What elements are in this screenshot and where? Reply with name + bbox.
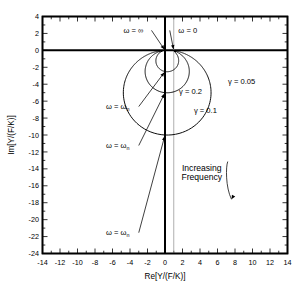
x-tick-label: 8 <box>233 258 237 267</box>
annotation-omega-n-gamma-02: ω = ωn <box>106 102 130 112</box>
y-tick-label: -22 <box>29 232 39 241</box>
annotation-text: ω = ∞ <box>124 26 144 35</box>
x-tick-label: 0 <box>163 258 167 267</box>
y-tick-label: -20 <box>29 215 39 224</box>
x-tick-label: 14 <box>284 258 292 267</box>
y-tick-label: -24 <box>29 249 39 258</box>
x-tick-label: 6 <box>216 258 220 267</box>
chart-background <box>0 0 305 289</box>
y-tick-label: -10 <box>29 131 39 140</box>
annotation-line-1: Increasing <box>182 163 222 173</box>
annotation-subscript: n <box>127 106 130 112</box>
annotation-text: ω = 0 <box>178 26 197 35</box>
x-tick-label: -8 <box>92 258 98 267</box>
x-tick-label: -10 <box>72 258 82 267</box>
annotation-line-2: Frequency <box>181 172 222 182</box>
x-tick-label: 10 <box>249 258 257 267</box>
annotation-omega-n-gamma-01: ω = ωn <box>106 141 130 151</box>
y-tick-label: -2 <box>33 63 39 72</box>
y-tick-label: 0 <box>35 46 39 55</box>
y-axis-title: Im[Y/(F/K)] <box>7 115 16 155</box>
y-tick-label: -12 <box>29 148 39 157</box>
x-tick-label: -2 <box>144 258 150 267</box>
x-tick-label: -6 <box>109 258 115 267</box>
y-tick-label: -18 <box>29 198 39 207</box>
y-tick-label: 4 <box>35 12 39 21</box>
x-tick-label: -14 <box>37 258 47 267</box>
annotation-text: ω = ω <box>106 102 127 111</box>
annotation-subscript: n <box>127 145 130 151</box>
x-tick-label: -4 <box>127 258 133 267</box>
x-tick-label: 4 <box>198 258 202 267</box>
y-tick-label: 2 <box>35 29 39 38</box>
x-tick-label: -12 <box>55 258 65 267</box>
annotation-omega-zero: ω = 0 <box>178 26 197 35</box>
y-tick-label: -16 <box>29 181 39 190</box>
y-tick-label: -6 <box>33 97 39 106</box>
x-axis-title: Re[Y/(F/K)] <box>145 272 186 281</box>
annotation-text: ω = ω <box>106 141 127 150</box>
annotation-omega-n-gamma-005: ω = ωn <box>106 228 130 238</box>
annotation-text: ω = ω <box>106 228 127 237</box>
nyquist-chart: -14-12-10-8-6-4-202468101214420-2-4-6-8-… <box>0 0 305 289</box>
annotation-increasing-frequency: IncreasingFrequency <box>181 163 222 183</box>
nyquist-plot-figure: -14-12-10-8-6-4-202468101214420-2-4-6-8-… <box>0 0 305 289</box>
annotation-subscript: n <box>127 232 130 238</box>
series-label-0p1: γ = 0.1 <box>194 106 217 115</box>
annotation-omega-infinity: ω = ∞ <box>124 26 144 35</box>
y-tick-label: -8 <box>33 114 39 123</box>
series-label-0p2: γ = 0.2 <box>179 87 202 96</box>
x-tick-label: 12 <box>266 258 274 267</box>
series-label-0p05: γ = 0.05 <box>228 77 255 86</box>
y-tick-label: -4 <box>33 80 39 89</box>
x-tick-label: 2 <box>181 258 185 267</box>
y-tick-label: -14 <box>29 164 39 173</box>
